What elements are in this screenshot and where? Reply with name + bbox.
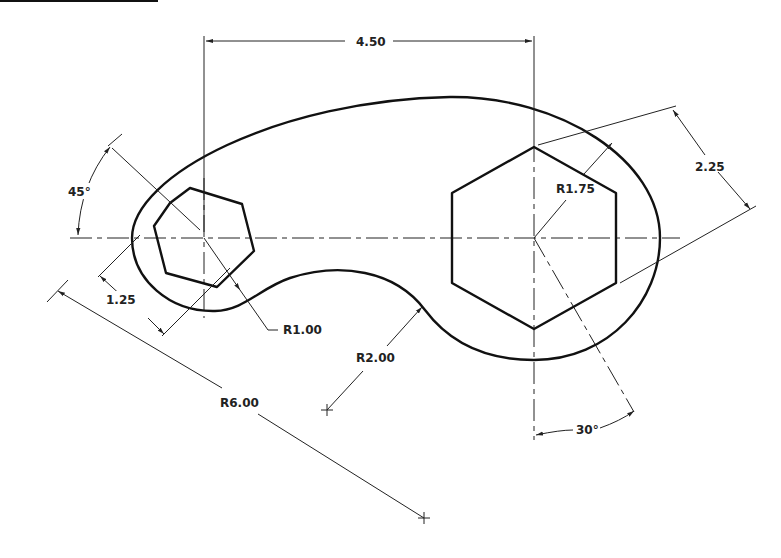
- leader-r175: [534, 200, 566, 238]
- dim-label-right-angle: 30°: [576, 423, 599, 437]
- dim-label-left-angle: 45°: [68, 185, 91, 199]
- leader-r100: [204, 238, 278, 330]
- dim-label-outer-offset: 2.25: [695, 160, 725, 174]
- technical-drawing: 4.50 2.25 R1.75 45° 1.25 R1.00 R: [0, 0, 781, 558]
- leader-r175-arrow: [584, 143, 612, 174]
- dim-label-center-distance: 4.50: [356, 35, 386, 49]
- dim-label-left-offset: 1.25: [106, 293, 136, 307]
- dim-45-angle: [78, 134, 200, 235]
- dim-label-large-radius: R6.00: [220, 396, 259, 410]
- outer-profile: [132, 97, 660, 360]
- dim-label-small-radius: R1.00: [283, 323, 322, 337]
- dim-label-hex-radius: R1.75: [556, 182, 595, 196]
- dim-label-concave-radius: R2.00: [356, 351, 395, 365]
